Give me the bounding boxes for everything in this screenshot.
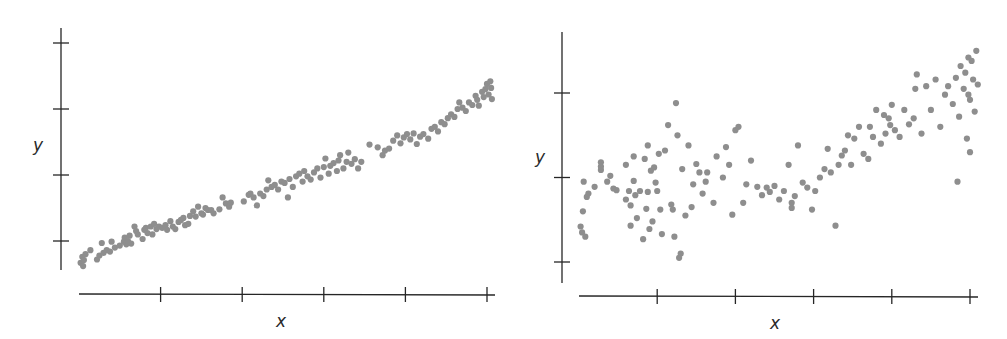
data-point (954, 179, 960, 185)
data-point (804, 185, 810, 191)
data-point (789, 200, 795, 206)
data-point (689, 204, 695, 210)
data-point (220, 194, 226, 200)
data-point (965, 92, 971, 98)
data-point (792, 193, 798, 199)
data-point (321, 164, 327, 170)
data-point (355, 165, 361, 171)
data-point (682, 212, 688, 218)
data-point (646, 226, 652, 232)
data-point (886, 115, 892, 121)
data-point (923, 83, 929, 89)
data-point (842, 147, 848, 153)
data-point (671, 234, 677, 240)
data-point (581, 179, 587, 185)
data-point (414, 141, 420, 147)
data-point (964, 136, 970, 142)
x-axis-label: x (275, 311, 287, 331)
data-point (969, 58, 975, 64)
data-point (195, 204, 201, 210)
data-point (286, 176, 292, 182)
data-point (690, 181, 696, 187)
data-point (759, 192, 765, 198)
data-point (375, 144, 381, 150)
data-point (216, 206, 222, 212)
data-point (906, 121, 912, 127)
data-point (241, 198, 247, 204)
data-point (882, 131, 888, 137)
data-point (394, 132, 400, 138)
data-point (345, 150, 351, 156)
data-point (720, 174, 726, 180)
data-point (127, 233, 133, 239)
data-point (812, 188, 818, 194)
data-point (795, 142, 801, 148)
x-axis-line (579, 296, 978, 297)
data-point (488, 85, 494, 91)
data-point (937, 124, 943, 130)
data-point (164, 227, 170, 233)
data-point (889, 102, 895, 108)
data-point (623, 196, 629, 202)
data-point (228, 200, 234, 206)
data-point (420, 131, 426, 137)
data-point (301, 168, 307, 174)
data-point (914, 71, 920, 77)
data-point (735, 124, 741, 130)
data-point (878, 141, 884, 147)
data-point (945, 83, 951, 89)
data-point (845, 132, 851, 138)
data-point (82, 251, 88, 257)
data-point (487, 78, 493, 84)
data-point (928, 107, 934, 113)
data-point (654, 188, 660, 194)
data-point (825, 146, 831, 152)
data-point (973, 48, 979, 54)
data-point (322, 155, 328, 161)
data-point (975, 81, 981, 87)
data-point (848, 162, 854, 168)
data-point (607, 173, 613, 179)
data-point (425, 136, 431, 142)
data-point (109, 239, 115, 245)
data-point (645, 189, 651, 195)
data-point (386, 146, 392, 152)
data-point (340, 165, 346, 171)
data-point (308, 177, 314, 183)
data-point (337, 152, 343, 158)
data-point (628, 202, 634, 208)
data-point (200, 212, 206, 218)
data-point (710, 200, 716, 206)
data-point (314, 165, 320, 171)
data-point (326, 171, 332, 177)
data-point (640, 236, 646, 242)
data-point (631, 153, 637, 159)
data-point (628, 223, 634, 229)
data-point (740, 200, 746, 206)
data-point (767, 189, 773, 195)
data-point (743, 181, 749, 187)
data-point (390, 138, 396, 144)
data-point (578, 223, 584, 229)
data-point (887, 122, 893, 128)
data-point (582, 234, 588, 240)
data-point (469, 102, 475, 108)
data-point (456, 99, 462, 105)
axes (53, 28, 495, 302)
data-point (358, 159, 364, 165)
data-point (254, 202, 260, 208)
data-point (474, 97, 480, 103)
data-points (578, 48, 981, 261)
data-point (80, 263, 86, 269)
data-point (435, 128, 441, 134)
data-point (873, 107, 879, 113)
data-point (776, 196, 782, 202)
data-point (912, 86, 918, 92)
x-axis-line (79, 294, 495, 295)
data-point (81, 257, 87, 263)
data-point (476, 103, 482, 109)
data-point (956, 114, 962, 120)
data-point (598, 163, 604, 169)
data-point (190, 208, 196, 214)
data-point (637, 188, 643, 194)
